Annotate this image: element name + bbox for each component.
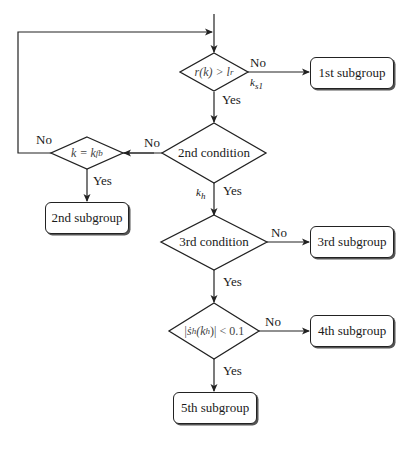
label-d2-no: No [144,136,160,149]
label-d4-no: No [265,315,281,328]
decision-1-sub: r [230,67,234,77]
label-loop-no: No [36,133,52,146]
decision-4-tail: )| < 0.1 [210,324,244,339]
decision-loop-sub: fb [96,148,103,158]
decision-4-expr: |ṡ [184,324,192,339]
label-d1-yes: Yes [222,93,241,106]
decision-loop-text: k = kfb [51,143,123,163]
box-5th-subgroup: 5th subgroup [173,392,257,424]
label-d1-no: No [250,56,266,69]
box-3rd-subgroup: 3rd subgroup [310,226,394,258]
label-d3-yes: Yes [223,275,242,288]
label-ks1: ks1 [250,77,263,91]
decision-loop-expr: k = k [71,146,96,161]
label-d4-yes: Yes [223,364,242,377]
label-ks1-sub: s1 [255,81,263,91]
decision-3-text: 3rd condition [161,232,267,252]
decision-4-text: |ṡh(kh)| < 0.1 [169,321,259,341]
decision-2-text: 2nd condition [162,143,266,163]
decision-1-expr: r(k) > l [195,65,230,80]
box-1st-subgroup: 1st subgroup [310,57,394,89]
box-4th-subgroup: 4th subgroup [310,315,394,347]
label-loop-yes: Yes [93,174,112,187]
label-d3-no: No [271,226,287,239]
box-2nd-subgroup: 2nd subgroup [45,202,129,234]
decision-1-text: r(k) > lr [180,62,248,82]
label-kh-sub: h [201,191,206,201]
label-d2-yes: Yes [223,184,242,197]
decision-4-mid: (k [196,324,205,339]
label-kh: kh [196,187,205,201]
